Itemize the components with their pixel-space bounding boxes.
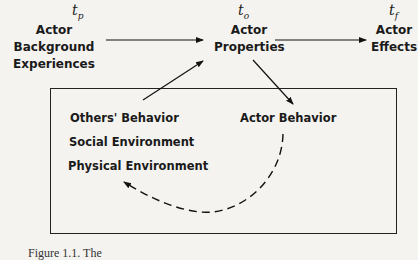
arrow-behavior-to-environment-dashed <box>124 134 283 212</box>
arrow-properties-to-behavior <box>253 60 293 104</box>
arrow-environment-to-properties <box>143 61 203 100</box>
edges-layer <box>0 0 418 260</box>
figure-caption: Figure 1.1. The <box>28 246 102 260</box>
